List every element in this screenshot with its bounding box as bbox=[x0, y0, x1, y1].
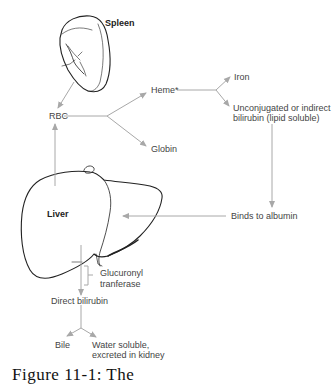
arrow-to-bile bbox=[67, 328, 81, 336]
globin-label: Globin bbox=[151, 144, 177, 154]
unconjugated-label-line2: bilirubin (lipid soluble) bbox=[233, 113, 320, 123]
iron-label: Iron bbox=[234, 72, 250, 82]
enzyme-label-line1: Glucuronyl bbox=[100, 268, 143, 278]
arrow-to-unconjugated bbox=[216, 90, 229, 106]
unconjugated-label-line1: Unconjugated or indirect bbox=[233, 103, 331, 113]
kidney-label-line2: excreted in kidney bbox=[92, 350, 165, 360]
heme-label: Heme* bbox=[151, 85, 179, 95]
spleen-illustration bbox=[60, 16, 110, 92]
kidney-label-line1: Water soluble, bbox=[92, 340, 149, 350]
liver-label: Liver bbox=[47, 209, 69, 219]
enzyme-label-line2: tranferase bbox=[100, 279, 141, 289]
rbc-label: RBC bbox=[49, 111, 68, 121]
direct-bilirubin-label: Direct bilirubin bbox=[51, 296, 108, 306]
arrow-to-heme bbox=[107, 93, 146, 116]
spleen-label: Spleen bbox=[105, 18, 135, 28]
bile-label: Bile bbox=[55, 340, 70, 350]
arrow-to-iron bbox=[216, 77, 230, 90]
liver-illustration bbox=[21, 166, 162, 278]
arrow-to-kidney bbox=[81, 328, 96, 337]
arrow-to-globin bbox=[107, 116, 146, 146]
figure-caption: Figure 11-1: The bbox=[12, 365, 134, 385]
albumin-label: Binds to albumin bbox=[231, 211, 298, 221]
arrow-spleen-to-rbc bbox=[58, 82, 74, 108]
enzyme-bracket bbox=[84, 266, 93, 285]
